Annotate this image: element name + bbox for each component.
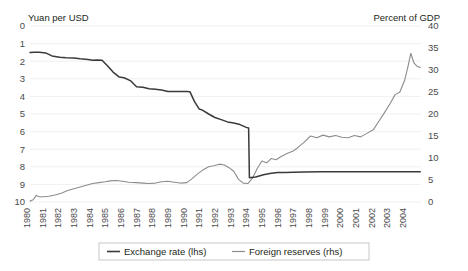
- chart-container: Yuan per USD Percent of GDP 012345678910…: [0, 0, 468, 271]
- right-tick-label: 25: [428, 86, 439, 97]
- left-axis-title: Yuan per USD: [28, 12, 89, 23]
- x-tick-label: 1990: [179, 208, 189, 228]
- x-tick-label: 1997: [288, 208, 298, 228]
- x-tick-label: 1985: [100, 208, 110, 228]
- left-tick-label: 3: [20, 73, 25, 84]
- x-tick-label: 1998: [304, 208, 314, 228]
- x-tick-label: 2002: [367, 208, 377, 228]
- right-tick-label: 15: [428, 130, 439, 141]
- left-tick-label: 1: [20, 38, 25, 49]
- x-tick-label: 2000: [335, 208, 345, 228]
- x-tick-label: 1996: [273, 208, 283, 228]
- right-tick-label: 35: [428, 42, 439, 53]
- right-tick-label: 5: [428, 174, 433, 185]
- left-tick-label: 7: [20, 144, 25, 155]
- right-tick-label: 10: [428, 152, 439, 163]
- x-tick-label: 1984: [85, 208, 95, 228]
- left-tick-label: 5: [20, 108, 25, 119]
- left-tick-label: 4: [20, 91, 25, 102]
- right-tick-label: 20: [428, 108, 439, 119]
- left-tick-label: 6: [20, 126, 25, 137]
- left-tick-label: 8: [20, 161, 25, 172]
- right-tick-label: 30: [428, 64, 439, 75]
- legend-label: Foreign reserves (rhs): [249, 246, 342, 257]
- left-tick-label: 9: [20, 179, 25, 190]
- chart-background: [0, 0, 468, 271]
- x-tick-label: 1987: [132, 208, 142, 228]
- x-tick-label: 1980: [22, 208, 32, 228]
- x-tick-label: 1999: [320, 208, 330, 228]
- left-tick-label: 10: [14, 196, 25, 207]
- x-tick-label: 1993: [226, 208, 236, 228]
- right-tick-label: 0: [428, 196, 433, 207]
- x-tick-label: 1992: [210, 208, 220, 228]
- right-tick-label: 40: [428, 20, 439, 31]
- x-tick-label: 1983: [69, 208, 79, 228]
- x-tick-label: 1982: [53, 208, 63, 228]
- x-tick-label: 1994: [241, 208, 251, 228]
- x-tick-label: 1981: [38, 208, 48, 228]
- x-tick-label: 1989: [163, 208, 173, 228]
- chart-legend: Exchange rate (lhs)Foreign reserves (rhs…: [99, 243, 369, 260]
- left-tick-label: 0: [20, 20, 25, 31]
- x-tick-label: 1991: [194, 208, 204, 228]
- x-tick-label: 1988: [147, 208, 157, 228]
- x-tick-label: 1986: [116, 208, 126, 228]
- x-tick-label: 1995: [257, 208, 267, 228]
- x-tick-label: 2003: [382, 208, 392, 228]
- x-tick-label: 2001: [351, 208, 361, 228]
- legend-label: Exchange rate (lhs): [124, 246, 206, 257]
- left-tick-label: 2: [20, 56, 25, 67]
- x-tick-label: 2004: [398, 208, 408, 228]
- dual-axis-line-chart: Yuan per USD Percent of GDP 012345678910…: [0, 0, 468, 271]
